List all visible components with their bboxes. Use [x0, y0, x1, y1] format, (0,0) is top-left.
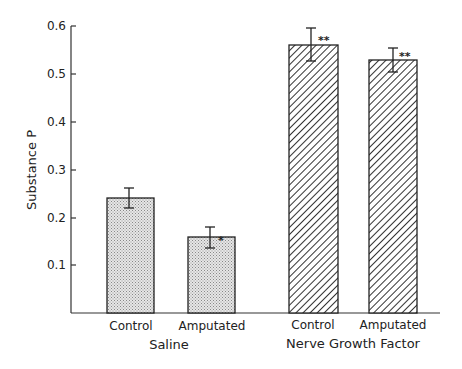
x-tick-label: Control [291, 318, 334, 332]
y-tick-label: 0.4 [47, 115, 66, 129]
y-tick-label: 0.1 [47, 258, 66, 272]
bar-ngf-control [289, 45, 338, 313]
error-bars [124, 28, 398, 248]
bar-ngf-amputated [369, 60, 417, 313]
y-tick-label: 0.3 [47, 163, 66, 177]
y-tick-label: 0.6 [47, 19, 66, 33]
bars [107, 45, 417, 313]
y-tick-label: 0.5 [47, 67, 66, 81]
y-axis-label: Substance P [24, 130, 39, 210]
y-tick-label: 0.2 [47, 211, 66, 225]
x-tick-label: Amputated [360, 318, 427, 332]
significance-marker: ** [399, 50, 411, 63]
group-label-ngf: Nerve Growth Factor [286, 336, 421, 351]
x-tick-label: Control [109, 319, 152, 333]
significance-marker: ** [318, 34, 330, 47]
y-axis: 0.6 0.5 0.4 0.3 0.2 0.1 Substance P [24, 19, 76, 313]
bar-saline-control [107, 198, 154, 313]
x-tick-label: Amputated [179, 319, 246, 333]
bar-chart: 0.6 0.5 0.4 0.3 0.2 0.1 Substance P * **… [0, 0, 462, 369]
group-label-saline: Saline [149, 337, 189, 352]
significance-marker: * [218, 234, 224, 247]
